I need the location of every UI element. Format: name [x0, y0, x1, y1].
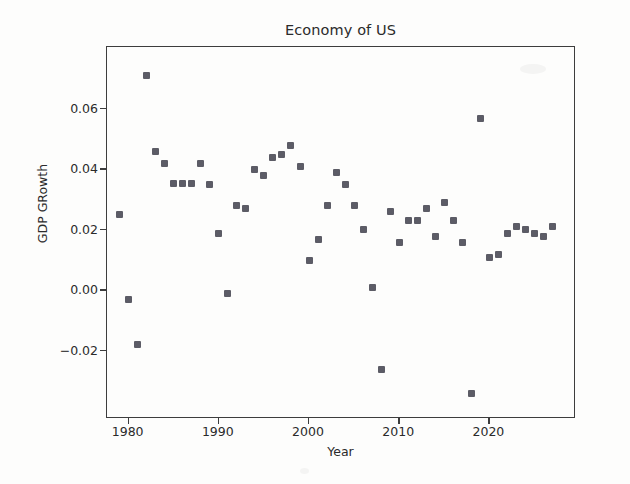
- data-point: [351, 202, 358, 209]
- data-point: [143, 72, 150, 79]
- data-point: [432, 233, 439, 240]
- data-point: [423, 205, 430, 212]
- data-point: [387, 208, 394, 215]
- data-point: [161, 160, 168, 167]
- data-point: [378, 366, 385, 373]
- x-tick-mark: [218, 418, 219, 424]
- plot-area: [106, 46, 575, 418]
- data-point: [477, 115, 484, 122]
- data-point: [251, 166, 258, 173]
- figure-canvas: Economy of US GDP GRowth Year −0.020.000…: [0, 0, 630, 484]
- x-tick-label: 1980: [93, 424, 163, 439]
- x-tick-mark: [488, 418, 489, 424]
- chart-title: Economy of US: [106, 22, 575, 38]
- paper-speck: [300, 468, 309, 474]
- data-point: [116, 211, 123, 218]
- data-point: [315, 236, 322, 243]
- data-point: [188, 180, 195, 187]
- data-point: [287, 142, 294, 149]
- data-point: [170, 180, 177, 187]
- data-point: [540, 233, 547, 240]
- data-point: [549, 223, 556, 230]
- data-point: [152, 148, 159, 155]
- data-point: [125, 296, 132, 303]
- data-point: [513, 223, 520, 230]
- y-tick-label: −0.02: [36, 342, 98, 357]
- x-tick-label: 2020: [453, 424, 523, 439]
- data-point: [450, 217, 457, 224]
- data-point: [306, 257, 313, 264]
- data-point: [260, 172, 267, 179]
- data-point: [242, 205, 249, 212]
- data-point: [486, 254, 493, 261]
- data-point: [405, 217, 412, 224]
- data-point: [134, 341, 141, 348]
- data-point: [278, 151, 285, 158]
- x-tick-mark: [308, 418, 309, 424]
- data-point: [522, 226, 529, 233]
- data-point: [224, 290, 231, 297]
- data-point: [215, 230, 222, 237]
- data-point: [333, 169, 340, 176]
- y-tick-label: 0.04: [36, 161, 98, 176]
- data-point: [324, 202, 331, 209]
- x-tick-label: 1990: [183, 424, 253, 439]
- data-point: [233, 202, 240, 209]
- data-point: [360, 226, 367, 233]
- data-point: [179, 180, 186, 187]
- data-point: [495, 251, 502, 258]
- data-point: [269, 154, 276, 161]
- data-point: [531, 230, 538, 237]
- x-tick-label: 2000: [273, 424, 343, 439]
- data-point: [468, 390, 475, 397]
- data-point: [396, 239, 403, 246]
- data-point: [369, 284, 376, 291]
- data-point: [342, 181, 349, 188]
- x-tick-mark: [398, 418, 399, 424]
- y-tick-label: 0.02: [36, 221, 98, 236]
- x-axis-label: Year: [106, 444, 575, 459]
- data-point: [459, 239, 466, 246]
- data-point: [206, 181, 213, 188]
- data-point: [414, 217, 421, 224]
- x-tick-label: 2010: [363, 424, 433, 439]
- x-tick-mark: [128, 418, 129, 424]
- data-point: [441, 199, 448, 206]
- y-tick-label: 0.06: [36, 101, 98, 116]
- data-point: [297, 163, 304, 170]
- data-point: [504, 230, 511, 237]
- y-tick-label: 0.00: [36, 282, 98, 297]
- data-point: [197, 160, 204, 167]
